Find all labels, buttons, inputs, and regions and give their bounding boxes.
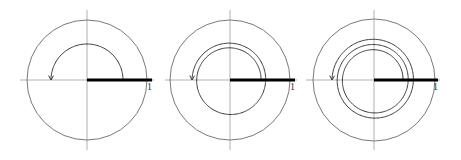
diagram-canvas: 111 — [0, 0, 461, 160]
spiral-diagram-figure: 111 — [0, 0, 461, 160]
panel-1: 1 — [20, 10, 154, 150]
unit-label: 1 — [290, 81, 295, 92]
panel-3: 1 — [306, 10, 440, 150]
unit-label: 1 — [433, 81, 438, 92]
unit-label: 1 — [147, 81, 152, 92]
panel-2: 1 — [165, 10, 297, 150]
